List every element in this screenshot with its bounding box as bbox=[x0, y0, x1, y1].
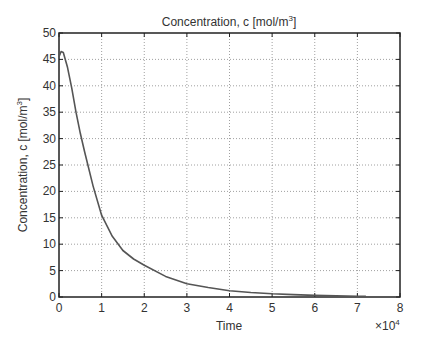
x-tick-label: 8 bbox=[397, 301, 404, 315]
grid-lines bbox=[59, 33, 400, 297]
y-tick-label: 50 bbox=[43, 26, 57, 40]
x-tick-label: 7 bbox=[354, 301, 361, 315]
y-tick-label: 30 bbox=[43, 132, 57, 146]
x-tick-label: 2 bbox=[141, 301, 148, 315]
y-tick-label: 40 bbox=[43, 79, 57, 93]
y-tick-label: 0 bbox=[49, 290, 56, 304]
concentration-curve bbox=[59, 52, 366, 297]
y-tick-label: 5 bbox=[49, 264, 56, 278]
x-tick-label: 5 bbox=[269, 301, 276, 315]
y-tick-label: 35 bbox=[43, 105, 57, 119]
y-tick-label: 20 bbox=[43, 184, 57, 198]
x-tick-label: 6 bbox=[311, 301, 318, 315]
x-axis-label: Time bbox=[216, 319, 243, 333]
y-tick-label: 10 bbox=[43, 237, 57, 251]
x-tick-label: 3 bbox=[184, 301, 191, 315]
x-tick-label: 0 bbox=[56, 301, 63, 315]
chart-title: Concentration, c [mol/m3] bbox=[162, 14, 297, 29]
data-series bbox=[59, 52, 366, 297]
x-axis-multiplier: ×104 bbox=[375, 318, 400, 333]
y-tick-label: 25 bbox=[43, 158, 57, 172]
x-tick-label: 4 bbox=[226, 301, 233, 315]
concentration-chart: 01234567805101520253035404550 Concentrat… bbox=[0, 0, 425, 347]
y-tick-label: 15 bbox=[43, 211, 57, 225]
y-tick-label: 45 bbox=[43, 52, 57, 66]
x-tick-label: 1 bbox=[98, 301, 105, 315]
axis-ticks: 01234567805101520253035404550 bbox=[43, 26, 404, 315]
y-axis-label: Concentration, c [mol/m3] bbox=[15, 98, 30, 233]
